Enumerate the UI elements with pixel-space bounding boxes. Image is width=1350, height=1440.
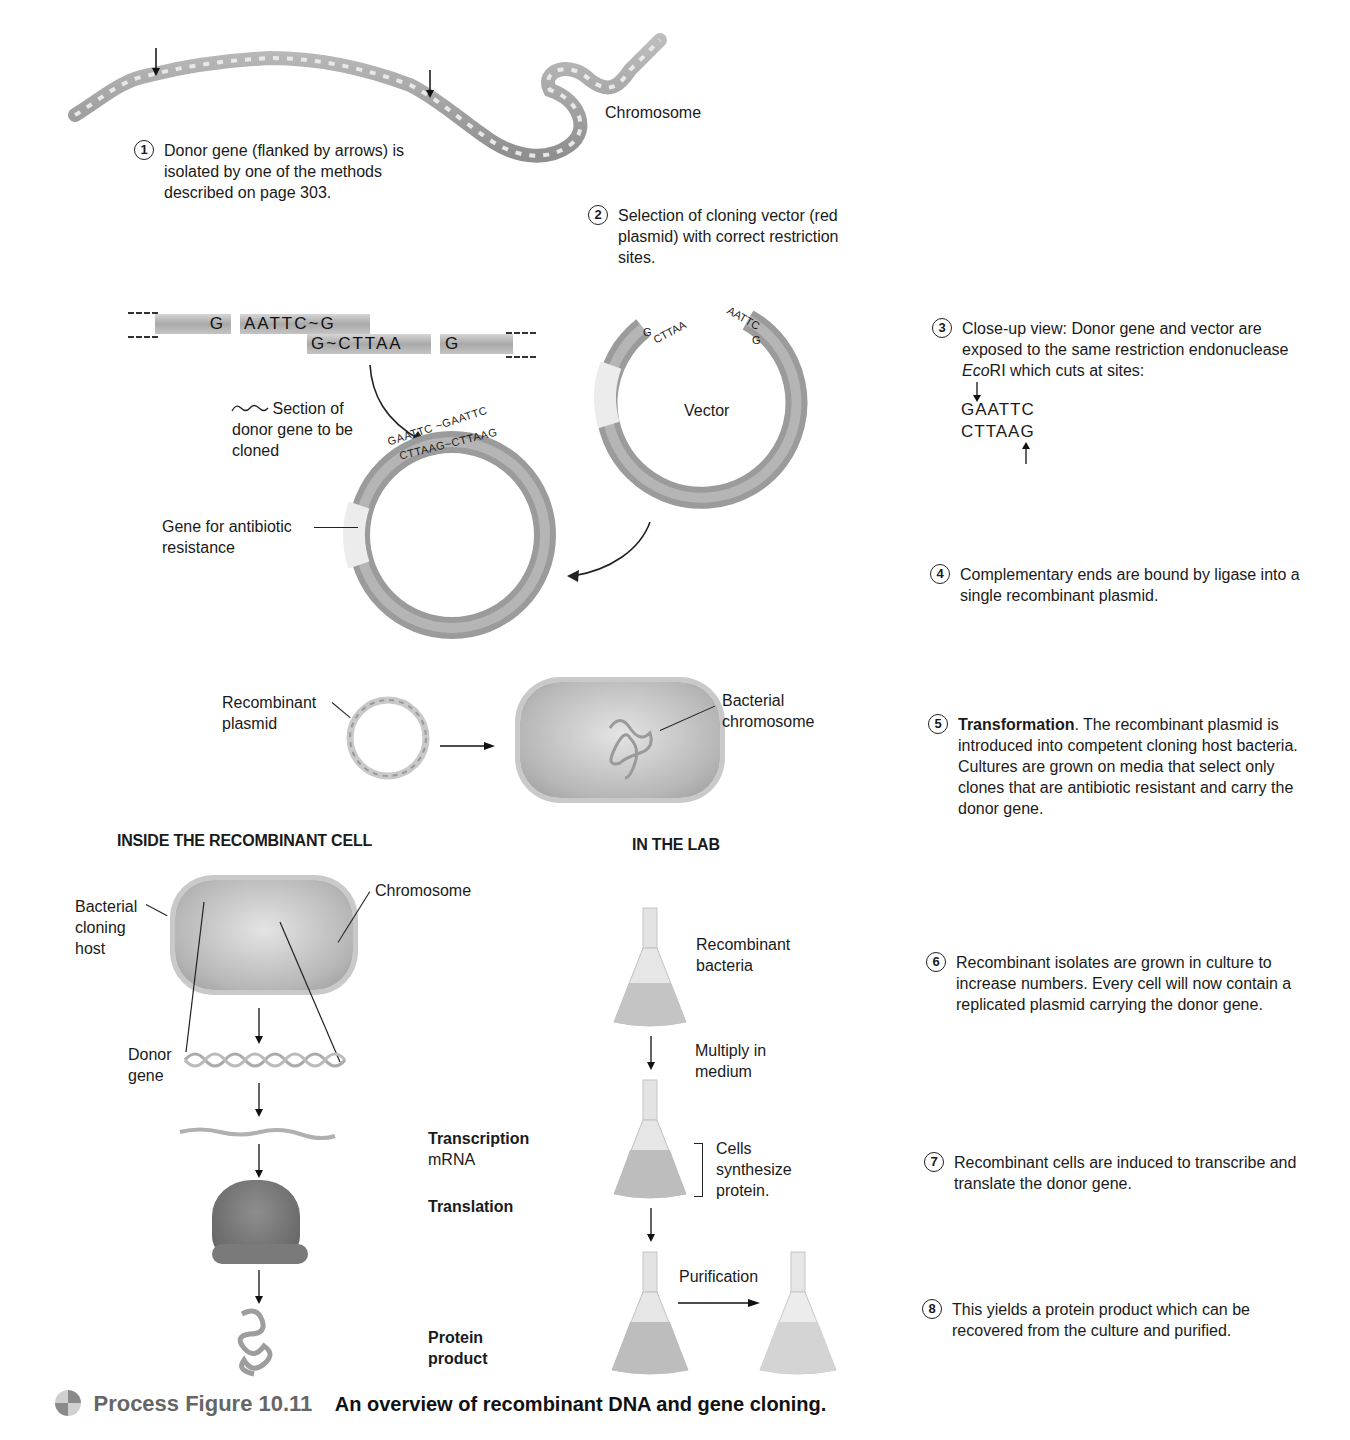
chromosome-label: Chromosome bbox=[605, 102, 701, 123]
step-4: 4 Complementary ends are bound by ligase… bbox=[930, 564, 1310, 606]
donor-right-segment: G bbox=[440, 334, 513, 354]
vector-label: Vector bbox=[684, 400, 729, 421]
protein-product-label: Protein product bbox=[428, 1327, 508, 1369]
donor-left-segment: G bbox=[155, 314, 231, 334]
step-number: 8 bbox=[922, 1299, 942, 1319]
donor-mid-bottom-segment: G~CTTAA bbox=[307, 334, 431, 354]
curved-arrow-icon bbox=[565, 520, 655, 582]
bacterial-chromosome-label: Bacterial chromosome bbox=[722, 690, 842, 732]
transform-arrow-icon bbox=[440, 737, 495, 755]
down-arrow-icon bbox=[254, 1144, 264, 1182]
step-number: 2 bbox=[588, 205, 608, 225]
vector-end-left-top: G bbox=[643, 326, 652, 338]
step-number: 1 bbox=[134, 140, 154, 160]
cut-arrow-up-icon bbox=[1021, 442, 1031, 468]
multiply-in-medium-label: Multiply in medium bbox=[695, 1040, 795, 1082]
recombinant-plasmid-small bbox=[345, 695, 435, 785]
donor-left-end-bracket bbox=[128, 312, 158, 338]
purification-label: Purification bbox=[679, 1266, 758, 1287]
step-number: 3 bbox=[932, 318, 952, 338]
inside-cell-heading: INSIDE THE RECOMBINANT CELL bbox=[117, 832, 372, 850]
step-number: 4 bbox=[930, 564, 950, 584]
donor-gene-helix bbox=[185, 1048, 345, 1072]
step-text: Complementary ends are bound by ligase i… bbox=[960, 564, 1310, 606]
wavy-line-icon bbox=[232, 398, 268, 419]
flask-recombinant-bacteria bbox=[610, 908, 690, 1028]
protein-product-icon bbox=[222, 1306, 292, 1370]
transcription-label: Transcription bbox=[428, 1128, 529, 1149]
step-number: 6 bbox=[926, 952, 946, 972]
step-5: 5 Transformation. The recombinant plasmi… bbox=[928, 714, 1318, 819]
cells-synthesize-label: Cells synthesize protein. bbox=[706, 1138, 816, 1201]
step-number: 7 bbox=[924, 1152, 944, 1172]
step-2: 2 Selection of cloning vector (red plasm… bbox=[588, 205, 848, 268]
recombinant-plasmid-label: Recombinant plasmid bbox=[222, 692, 332, 734]
bacterial-cloning-host-label: Bacterial cloning host bbox=[75, 896, 155, 959]
donor-gene-callout-lines bbox=[180, 900, 350, 1070]
down-arrow-icon bbox=[646, 1036, 656, 1074]
step-8: 8 This yields a protein product which ca… bbox=[922, 1299, 1312, 1341]
down-arrow-icon bbox=[254, 1008, 264, 1048]
step-text: This yields a protein product which can … bbox=[952, 1299, 1312, 1341]
step-text: Recombinant cells are induced to transcr… bbox=[954, 1152, 1314, 1194]
antibiotic-gene-label: Gene for antibiotic resistance bbox=[162, 516, 362, 558]
step-6: 6 Recombinant isolates are grown in cult… bbox=[926, 952, 1316, 1015]
step-3: 3 Close-up view: Donor gene and vector a… bbox=[932, 318, 1312, 381]
step-text: Donor gene (flanked by arrows) is isolat… bbox=[164, 140, 454, 203]
ribosome-small-subunit bbox=[212, 1244, 308, 1264]
step-text: Selection of cloning vector (red plasmid… bbox=[618, 205, 848, 268]
recombinant-bacteria-label: Recombinant bacteria bbox=[696, 934, 816, 976]
figure-label: Process Figure 10.11 bbox=[93, 1391, 312, 1416]
in-the-lab-heading: IN THE LAB bbox=[632, 836, 720, 854]
donor-gene-label: Donor gene bbox=[128, 1044, 188, 1086]
host-chromosome-label: Chromosome bbox=[375, 880, 471, 901]
flask-cells-synthesize bbox=[610, 1080, 690, 1200]
figure-caption-text: An overview of recombinant DNA and gene … bbox=[335, 1393, 827, 1415]
down-arrow-icon bbox=[254, 1083, 264, 1121]
donor-mid-top-segment: AATTC~G bbox=[240, 314, 370, 334]
figure-caption: Process Figure 10.11 An overview of reco… bbox=[55, 1390, 826, 1417]
process-figure-icon bbox=[55, 1390, 81, 1416]
ecori-site-top: GAATTC bbox=[961, 400, 1035, 420]
flank-arrow-right-icon bbox=[424, 70, 436, 98]
purification-arrow-icon bbox=[678, 1294, 760, 1312]
bracket-icon bbox=[694, 1143, 703, 1197]
flask-purified-product bbox=[756, 1252, 840, 1376]
step-text: Transformation. The recombinant plasmid … bbox=[958, 714, 1318, 819]
down-arrow-icon bbox=[646, 1208, 656, 1246]
bacterial-chromosome-tangle bbox=[600, 708, 660, 778]
step-text: Close-up view: Donor gene and vector are… bbox=[962, 318, 1312, 381]
step-number: 5 bbox=[928, 714, 948, 734]
down-arrow-icon bbox=[254, 1270, 264, 1308]
ecori-site-bottom: CTTAAG bbox=[961, 422, 1035, 442]
step-7: 7 Recombinant cells are induced to trans… bbox=[924, 1152, 1314, 1194]
mrna-strand bbox=[180, 1126, 335, 1140]
recombinant-plasmid-ring bbox=[345, 425, 560, 645]
antibiotic-gene-pointer bbox=[314, 527, 358, 528]
flank-arrow-left-icon bbox=[150, 48, 162, 76]
translation-label: Translation bbox=[428, 1196, 513, 1217]
donor-right-end-bracket bbox=[506, 332, 536, 358]
step-1: 1 Donor gene (flanked by arrows) is isol… bbox=[134, 140, 454, 203]
step-text: Recombinant isolates are grown in cultur… bbox=[956, 952, 1316, 1015]
mrna-label: mRNA bbox=[428, 1149, 475, 1170]
vector-end-right-bottom: G bbox=[752, 334, 761, 346]
